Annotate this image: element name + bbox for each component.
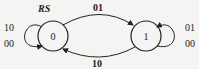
- state-1: 1: [131, 21, 161, 51]
- transition-1-to-0: [63, 47, 135, 57]
- state-0: 0: [38, 21, 68, 51]
- transition-1-to-0-label: 10: [92, 58, 102, 69]
- loop0-label-b: 00: [4, 38, 14, 49]
- transition-0-to-1-label: 01: [93, 2, 103, 13]
- loop1-label-a: 01: [185, 22, 195, 33]
- input-label: RS: [37, 3, 51, 14]
- state-0-label: 0: [51, 31, 56, 42]
- loop0-label-a: 10: [4, 22, 14, 33]
- loop1-label-b: 00: [185, 38, 195, 49]
- state-diagram: RS 0 1 10 00 01 00 01 10: [0, 0, 199, 69]
- diagram-canvas: RS 0 1 10 00 01 00 01 10: [0, 0, 199, 69]
- state-1-label: 1: [144, 31, 149, 42]
- transition-0-to-1: [63, 15, 133, 26]
